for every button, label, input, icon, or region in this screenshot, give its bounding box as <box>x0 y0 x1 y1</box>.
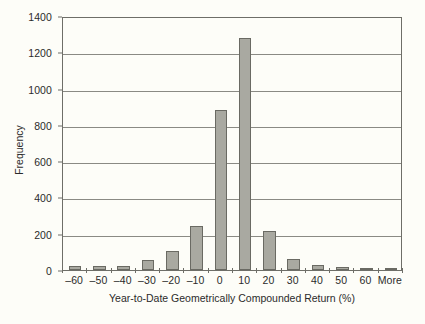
gridline <box>63 163 401 164</box>
x-tick-mark <box>353 268 354 273</box>
x-tick-mark <box>159 268 160 273</box>
bar <box>166 251 179 270</box>
x-tick-label: 10 <box>238 274 250 286</box>
gridline <box>63 54 401 55</box>
x-axis-title: Year-to-Date Geometrically Compounded Re… <box>62 292 402 304</box>
x-tick-mark <box>378 268 379 273</box>
x-tick-label: 30 <box>287 274 299 286</box>
bar <box>360 268 373 270</box>
y-tick-label: 0 <box>46 265 52 277</box>
x-tick-label: –40 <box>114 274 132 286</box>
x-tick-label: 20 <box>262 274 274 286</box>
x-tick-mark <box>305 268 306 273</box>
bar <box>287 259 300 270</box>
bar <box>215 110 228 270</box>
x-tick-mark <box>256 268 257 273</box>
y-tick-label: 1400 <box>28 11 52 23</box>
x-tick-mark <box>232 268 233 273</box>
bar <box>93 266 106 270</box>
x-tick-label: 0 <box>217 274 223 286</box>
y-tick-label: 400 <box>34 192 52 204</box>
x-tick-label: More <box>378 274 402 286</box>
gridline <box>63 91 401 92</box>
bar <box>69 266 82 270</box>
bar <box>142 260 155 270</box>
bar <box>385 268 398 270</box>
y-axis-tick-labels: 0200400600800100012001400 <box>0 0 62 290</box>
y-tick-label: 1000 <box>28 84 52 96</box>
y-tick-label: 600 <box>34 156 52 168</box>
x-tick-label: 50 <box>335 274 347 286</box>
x-tick-mark <box>86 268 87 273</box>
histogram-screenshot: Frequency 0200400600800100012001400 –60–… <box>0 0 425 324</box>
bar <box>190 226 203 270</box>
x-tick-label: 60 <box>360 274 372 286</box>
bar <box>312 265 325 270</box>
plot-area <box>62 17 402 271</box>
gridline <box>63 199 401 200</box>
y-tick-label: 200 <box>34 229 52 241</box>
bar <box>336 267 349 270</box>
gridline <box>63 127 401 128</box>
x-tick-mark <box>281 268 282 273</box>
x-tick-label: –60 <box>65 274 83 286</box>
x-tick-label: –30 <box>138 274 156 286</box>
x-tick-mark <box>183 268 184 273</box>
x-tick-mark <box>208 268 209 273</box>
x-axis-tick-labels: –60–50–40–30–20–100102030405060More <box>62 274 402 290</box>
x-tick-label: 40 <box>311 274 323 286</box>
x-tick-mark <box>135 268 136 273</box>
bar <box>263 231 276 270</box>
x-tick-mark <box>402 268 403 273</box>
x-tick-mark <box>111 268 112 273</box>
y-tick-label: 1200 <box>28 47 52 59</box>
x-tick-label: –20 <box>162 274 180 286</box>
y-tick-label: 800 <box>34 120 52 132</box>
x-tick-label: –50 <box>90 274 108 286</box>
bar <box>239 38 252 270</box>
x-tick-mark <box>62 268 63 273</box>
bar <box>117 266 130 270</box>
x-tick-label: –10 <box>187 274 205 286</box>
gridline <box>63 236 401 237</box>
x-tick-mark <box>329 268 330 273</box>
